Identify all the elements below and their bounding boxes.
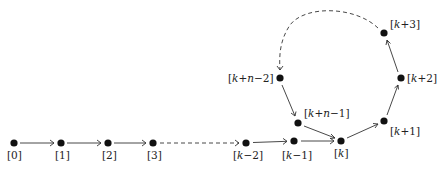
nodes	[10, 29, 404, 146]
node-k-plus-1	[380, 117, 387, 124]
node-2	[104, 139, 111, 146]
label-k-plus-2: [k+2]	[407, 72, 437, 84]
node-k-plus-n-minus-1	[294, 119, 301, 126]
edge-km2-km1	[253, 141, 287, 142]
label-k-plus-n-minus-1: [k+n−1]	[304, 107, 350, 119]
node-k	[337, 137, 344, 144]
label-3: [3]	[147, 149, 162, 161]
edge-kp2-kp3	[387, 40, 398, 72]
label-k-minus-1: [k−1]	[282, 149, 312, 161]
labels: [0] [1] [2] [3] [k−2] [k−1] [k] [k+1] [k…	[7, 18, 437, 161]
node-k-plus-n-minus-2	[276, 74, 283, 81]
edge-kn1-k	[304, 126, 335, 138]
edge-kp1-kp2	[387, 85, 398, 115]
label-k-plus-3: [k+3]	[390, 18, 420, 30]
node-k-plus-3	[380, 29, 387, 36]
label-1: [1]	[55, 149, 70, 161]
rho-sequence-diagram: [0] [1] [2] [3] [k−2] [k−1] [k] [k+1] [k…	[0, 0, 440, 169]
label-k: [k]	[334, 147, 349, 159]
edge-k-kp1	[347, 124, 378, 138]
label-2: [2]	[102, 149, 117, 161]
edges	[20, 11, 399, 146]
edge-kn2-kn1	[282, 85, 295, 116]
node-1	[57, 139, 64, 146]
node-0	[10, 139, 17, 146]
node-k-plus-2	[397, 74, 404, 81]
label-k-plus-n-minus-2: [k+n−2]	[228, 72, 274, 84]
node-k-minus-1	[290, 137, 297, 144]
label-k-minus-2: [k−2]	[233, 149, 263, 161]
label-k-plus-1: [k+1]	[390, 125, 420, 137]
edge-kp3-kn2	[280, 11, 378, 70]
node-3	[149, 139, 156, 146]
label-0: [0]	[7, 149, 22, 161]
node-k-minus-2	[242, 139, 249, 146]
